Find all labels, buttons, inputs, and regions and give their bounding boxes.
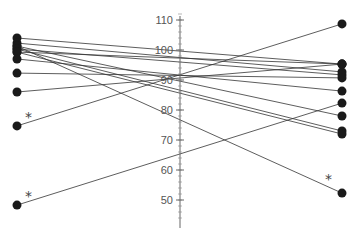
marker-right [338, 99, 347, 108]
tick-label: 90 [161, 74, 173, 86]
slope-chart: 5060708090100110 *** [0, 0, 361, 238]
marker-right [338, 189, 347, 198]
tick-label: 60 [161, 164, 173, 176]
tick-label: 80 [161, 104, 173, 116]
marker-right [338, 112, 347, 121]
marker-left [13, 55, 22, 64]
marker-left [13, 121, 22, 130]
star-annotation: * [25, 109, 32, 125]
marker-left [13, 201, 22, 210]
significance-markers: *** [25, 109, 332, 204]
tick-label: 70 [161, 134, 173, 146]
marker-right [338, 73, 347, 82]
marker-right [338, 60, 347, 69]
marker-right [338, 130, 347, 139]
tick-label: 50 [161, 194, 173, 206]
star-annotation: * [25, 188, 32, 204]
star-annotation: * [325, 171, 332, 187]
marker-right [338, 19, 347, 28]
marker-left [13, 88, 22, 97]
tick-label: 110 [155, 14, 173, 26]
marker-left [13, 69, 22, 78]
y-axis: 5060708090100110 [155, 14, 184, 228]
tick-label: 100 [155, 44, 173, 56]
marker-right [338, 87, 347, 96]
